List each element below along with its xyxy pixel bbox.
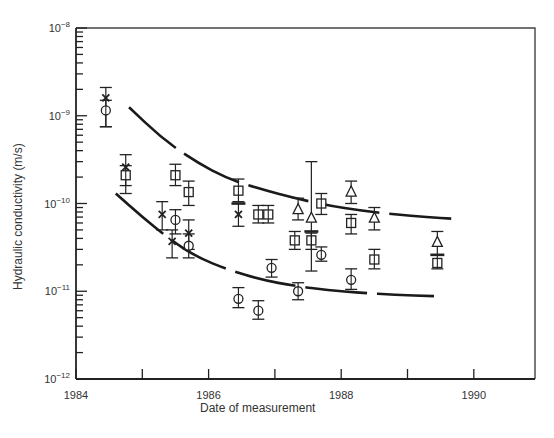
circle-point (100, 100, 112, 126)
triangle-point (292, 198, 304, 220)
y-tick-exponent: −11 (57, 283, 71, 292)
square-point (368, 249, 380, 268)
x-tick-label: 1986 (196, 389, 220, 401)
y-axis-label: Hydraulic conductivity (m/s) (11, 143, 25, 290)
y-tick-exponent: −8 (61, 20, 71, 29)
square-point (169, 164, 181, 185)
triangle-marker (346, 186, 356, 196)
y-tick-exponent: −12 (56, 371, 70, 380)
y-tick-label: 10−11 (45, 283, 71, 297)
square-point (120, 166, 132, 186)
x-tick-label: 1984 (64, 389, 88, 401)
x-tick-label: 1988 (329, 389, 353, 401)
triangle-marker (306, 212, 316, 222)
y-tick-exponent: −10 (56, 196, 70, 205)
x-axis: 1984198619881990 (64, 369, 486, 401)
triangle-marker (432, 236, 442, 246)
square-point (252, 205, 264, 223)
square-point (183, 181, 195, 205)
triangle-point (345, 181, 357, 203)
plot-frame (76, 28, 535, 379)
cross-point (232, 204, 244, 227)
square-point (262, 205, 274, 223)
x-tick-label: 1990 (462, 389, 486, 401)
y-tick-label: 10−9 (49, 108, 71, 122)
y-axis: 10−810−910−1010−1110−12 (44, 20, 87, 385)
circle-point (252, 301, 264, 320)
cross-point (156, 202, 168, 230)
x-axis-label: Date of measurement (200, 401, 316, 415)
y-tick-label: 10−8 (49, 20, 71, 34)
lower-bound-curve (116, 194, 434, 297)
upper-bound-curve (129, 107, 454, 219)
square-point (232, 179, 244, 202)
circle-point (232, 288, 244, 308)
triangle-marker (293, 204, 303, 214)
circle-point (345, 269, 357, 290)
square-point (345, 214, 357, 233)
triangle-point (305, 162, 317, 271)
y-tick-label: 10−12 (44, 371, 70, 385)
circle-point (266, 260, 278, 278)
square-point (315, 194, 327, 215)
y-tick-label: 10−10 (44, 196, 70, 210)
square-point (289, 231, 301, 249)
plot-border (76, 28, 535, 379)
hydraulic-conductivity-chart: 10−810−910−1010−1110−12 1984198619881990… (0, 0, 554, 438)
triangle-point (431, 231, 443, 254)
y-tick-exponent: −9 (61, 108, 71, 117)
square-point (431, 255, 443, 269)
data-points (100, 87, 445, 319)
